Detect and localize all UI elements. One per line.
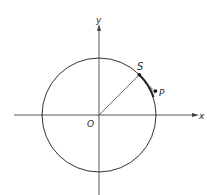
x-axis-label: x: [198, 111, 205, 121]
y-axis-arrow-icon: [97, 24, 101, 31]
radius-os: [99, 75, 139, 115]
point-p-dot: [154, 89, 158, 93]
point-s-label: S: [137, 61, 144, 72]
point-s-dot: [138, 73, 142, 77]
x-axis-arrow-icon: [192, 113, 199, 117]
diagram-svg: y x O S P: [0, 0, 207, 195]
diagram-canvas: y x O S P: [0, 0, 207, 195]
arc-s-p: [139, 75, 153, 97]
origin-label: O: [87, 119, 94, 129]
y-axis-label: y: [95, 15, 102, 25]
point-p-label: P: [159, 88, 165, 98]
